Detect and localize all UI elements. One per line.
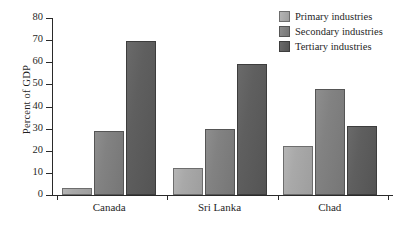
legend-item: Primary industries bbox=[279, 10, 383, 23]
bar-primary bbox=[283, 146, 313, 195]
chart-legend: Primary industriesSecondary industriesTe… bbox=[279, 10, 383, 53]
y-axis-tick: 30 bbox=[46, 129, 52, 130]
y-axis-tick: 10 bbox=[46, 173, 52, 174]
y-axis-tick-mark bbox=[46, 18, 52, 19]
y-axis-tick: 80 bbox=[46, 18, 52, 19]
x-axis-line bbox=[52, 195, 393, 196]
x-axis-category-label: Canada bbox=[93, 201, 126, 213]
bar-secondary bbox=[315, 89, 345, 195]
secondary-swatch-icon bbox=[279, 26, 290, 37]
bar-tertiary bbox=[347, 126, 377, 195]
y-axis-tick-mark bbox=[46, 151, 52, 152]
y-axis-tick-label: 20 bbox=[33, 144, 44, 155]
y-axis-tick-mark bbox=[46, 40, 52, 41]
y-axis-line bbox=[52, 18, 53, 196]
y-axis-tick-mark bbox=[46, 62, 52, 63]
x-axis-group-separator bbox=[278, 196, 279, 200]
y-axis-tick-label: 60 bbox=[33, 55, 44, 66]
tertiary-swatch-icon bbox=[279, 41, 290, 52]
x-axis-group-separator bbox=[388, 196, 389, 200]
y-axis-tick: 40 bbox=[46, 107, 52, 108]
legend-item-label: Secondary industries bbox=[295, 25, 383, 38]
y-axis-tick-label: 30 bbox=[33, 122, 44, 133]
y-axis-tick-label: 10 bbox=[33, 166, 44, 177]
bar-tertiary bbox=[237, 64, 267, 195]
y-axis-title: Percent of GDP bbox=[21, 30, 32, 170]
y-axis-tick: 20 bbox=[46, 151, 52, 152]
bar-group bbox=[62, 18, 162, 195]
y-axis-tick-label: 0 bbox=[38, 188, 43, 199]
legend-item-label: Tertiary industries bbox=[295, 40, 372, 53]
primary-swatch-icon bbox=[279, 11, 290, 22]
legend-item-label: Primary industries bbox=[295, 10, 372, 23]
y-axis-tick: 0 bbox=[46, 195, 52, 196]
bar-primary bbox=[62, 188, 92, 195]
y-axis-tick-mark bbox=[46, 195, 52, 196]
x-axis-category-label: Chad bbox=[318, 201, 341, 213]
x-axis-group-separator bbox=[57, 196, 58, 200]
bar-secondary bbox=[205, 129, 235, 195]
y-axis-tick-mark bbox=[46, 84, 52, 85]
bar-primary bbox=[173, 168, 203, 195]
bar-tertiary bbox=[126, 41, 156, 195]
x-axis-group-separator bbox=[167, 196, 168, 200]
legend-item: Secondary industries bbox=[279, 25, 383, 38]
bar-chart: Percent of GDP 01020304050607080 CanadaS… bbox=[0, 0, 409, 225]
y-axis-tick: 60 bbox=[46, 62, 52, 63]
x-axis-category-label: Sri Lanka bbox=[198, 201, 241, 213]
y-axis-tick-label: 40 bbox=[33, 100, 44, 111]
y-axis-tick-label: 50 bbox=[33, 77, 44, 88]
legend-item: Tertiary industries bbox=[279, 40, 383, 53]
y-axis-tick-mark bbox=[46, 173, 52, 174]
y-axis-tick: 50 bbox=[46, 84, 52, 85]
y-axis-tick-mark bbox=[46, 129, 52, 130]
y-axis-tick-mark bbox=[46, 107, 52, 108]
y-axis-tick: 70 bbox=[46, 40, 52, 41]
y-axis-tick-label: 70 bbox=[33, 33, 44, 44]
bar-group bbox=[173, 18, 273, 195]
bar-secondary bbox=[94, 131, 124, 195]
y-axis-tick-label: 80 bbox=[33, 11, 44, 22]
